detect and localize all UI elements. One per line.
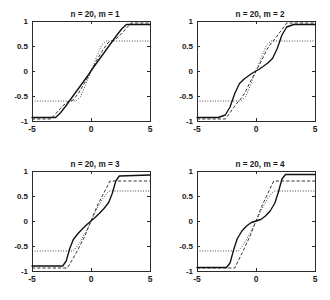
panel-2-series-target-sigmoid-solid: [32, 175, 150, 266]
panel-2-title: n = 20, m = 3: [70, 160, 120, 169]
panel-0: n = 20, m = 1 -1-0.500.51-505: [0, 0, 165, 150]
panel-3: n = 20, m = 4 -1-0.500.51-505: [165, 150, 330, 300]
panel-1: n = 20, m = 2 -1-0.500.51-505: [165, 0, 330, 150]
panel-3-xtick-1: 0: [254, 274, 259, 284]
panel-2-svg: n = 20, m = 3 -1-0.500.51-505: [0, 150, 165, 300]
panel-3-ytick-3: 0.5: [182, 192, 194, 201]
panel-3-ytick-1: -0.5: [179, 242, 193, 251]
panel-1-xtick-0: -5: [193, 124, 201, 134]
panel-2-ytick-4: 1: [24, 167, 29, 176]
panel-1-ytick-3: 0.5: [182, 42, 194, 51]
panel-3-series-approximation-dashed: [197, 181, 315, 268]
panel-0-ytick-3: 0.5: [17, 42, 29, 51]
panel-1-ytick-2: 0: [189, 67, 194, 76]
panel-3-ytick-2: 0: [189, 217, 194, 226]
panel-3-title: n = 20, m = 4: [235, 160, 285, 169]
panel-2-xtick-2: 5: [148, 274, 153, 284]
panel-1-ytick-4: 1: [189, 17, 194, 26]
panel-1-plot: -1-0.500.51-505: [179, 17, 317, 134]
panel-3-ytick-4: 1: [189, 167, 194, 176]
panel-0-svg: n = 20, m = 1 -1-0.500.51-505: [0, 0, 165, 150]
panel-3-series-target-sigmoid-solid: [197, 175, 315, 268]
panel-0-plot: -1-0.500.51-505: [14, 17, 152, 134]
panel-0-xtick-1: 0: [89, 124, 94, 134]
panel-2: n = 20, m = 3 -1-0.500.51-505: [0, 150, 165, 300]
panel-1-ytick-1: -0.5: [179, 92, 193, 101]
panel-1-xtick-1: 0: [254, 124, 259, 134]
panel-0-series-target-sigmoid-solid: [32, 25, 150, 118]
panel-0-ytick-1: -0.5: [14, 92, 28, 101]
panel-0-ytick-4: 1: [24, 17, 29, 26]
panel-0-ytick-2: 0: [24, 67, 29, 76]
panel-2-ytick-2: 0: [24, 217, 29, 226]
panel-1-xtick-2: 5: [313, 124, 318, 134]
figure-container: n = 20, m = 1 -1-0.500.51-505 n = 20, m …: [0, 0, 330, 300]
panel-2-xtick-1: 0: [89, 274, 94, 284]
panel-0-xtick-0: -5: [28, 124, 36, 134]
panel-1-svg: n = 20, m = 2 -1-0.500.51-505: [165, 0, 330, 150]
panel-2-ytick-1: -0.5: [14, 242, 28, 251]
panel-2-xtick-0: -5: [28, 274, 36, 284]
panel-0-title: n = 20, m = 1: [70, 10, 120, 19]
panel-2-ytick-3: 0.5: [17, 192, 29, 201]
panel-2-plot: -1-0.500.51-505: [14, 167, 152, 284]
panel-3-svg: n = 20, m = 4 -1-0.500.51-505: [165, 150, 330, 300]
panel-0-xtick-2: 5: [148, 124, 153, 134]
panel-3-xtick-0: -5: [193, 274, 201, 284]
panel-3-plot: -1-0.500.51-505: [179, 167, 317, 284]
panel-1-series-target-sigmoid-solid: [197, 25, 315, 118]
panel-3-xtick-2: 5: [313, 274, 318, 284]
panel-2-series-approximation-dashed: [32, 181, 150, 268]
panel-1-title: n = 20, m = 2: [235, 10, 285, 19]
